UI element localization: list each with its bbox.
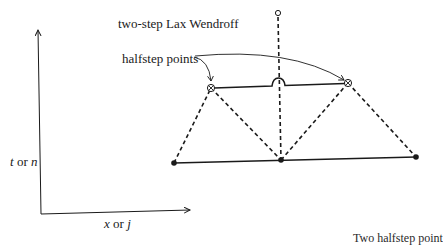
dash-vertical-center [278, 17, 281, 160]
dash-bottom-middle-to-halfstep-right [281, 83, 348, 160]
halfstep-points-label: halfstep points [122, 52, 198, 65]
nodes [171, 10, 419, 165]
t-axis-or: or [17, 154, 28, 169]
base-time-level-line [174, 157, 416, 163]
x-axis-var-x: x [104, 216, 110, 231]
x-axis-label: x or j [104, 217, 131, 230]
t-axis-var-t: t [10, 154, 14, 169]
x-axis-var-j: j [127, 216, 131, 231]
caption-fragment: Two halfstep point [353, 231, 443, 246]
dash-halfstep-right-to-bottom-right [348, 83, 416, 157]
x-axis [41, 210, 190, 214]
x-axis-or: or [113, 216, 124, 231]
halfstep-point-right [344, 79, 351, 86]
top-open-point [275, 10, 280, 15]
dash-bottom-left-to-halfstep-left [174, 88, 211, 163]
t-axis-label: t or n [10, 155, 37, 168]
bottom-left-point [171, 160, 177, 166]
t-axis [38, 30, 41, 214]
diagram-title: two-step Lax Wendroff [118, 17, 239, 30]
dash-halfstep-left-to-bottom-middle [211, 88, 281, 160]
bottom-right-point [413, 154, 419, 160]
bottom-middle-point [278, 157, 284, 163]
t-axis-var-n: n [31, 154, 38, 169]
halfstep-point-left [207, 84, 214, 91]
annotation-arrow-right [195, 54, 344, 80]
